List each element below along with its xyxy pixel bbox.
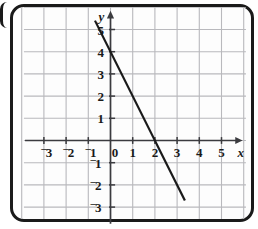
x-tick-label: 4 [196, 146, 203, 159]
y-tick-label: –3 [91, 201, 102, 214]
coordinate-plane-figure: –3–2–101234554321–1–2–3 x y [0, 0, 258, 229]
x-axis-label: x [237, 146, 244, 159]
gridlines [22, 7, 246, 229]
x-tick-label: –3 [41, 146, 52, 159]
x-tick-label-origin: 0 [112, 146, 119, 159]
data-line [95, 21, 185, 201]
y-tick-label: 5 [98, 23, 105, 36]
y-tick-label: 2 [98, 90, 105, 103]
linear-function-line [95, 21, 185, 201]
x-tick-label: 5 [218, 146, 225, 159]
y-axis-label: y [99, 10, 105, 23]
graph-canvas [0, 0, 258, 229]
y-tick-label: –2 [91, 178, 102, 191]
x-tick-label: 2 [152, 146, 159, 159]
y-tick-label: –1 [91, 156, 102, 169]
y-tick-label: 4 [98, 45, 105, 58]
axes [25, 11, 243, 224]
x-tick-label: 3 [174, 146, 181, 159]
x-axis-arrowhead [235, 137, 242, 144]
x-tick-label: –2 [63, 146, 74, 159]
y-axis-arrowhead [107, 11, 114, 19]
x-tick-label: 1 [129, 146, 136, 159]
y-tick-label: 3 [98, 67, 105, 80]
y-tick-label: 1 [98, 112, 105, 125]
